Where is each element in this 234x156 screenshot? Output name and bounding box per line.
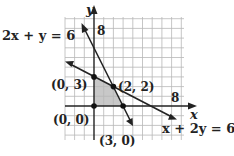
vertex-label-3-0: (3, 0) [99, 134, 135, 148]
graph: y 8 8 x 2x + y = 6 x + 2y = 6 (0, 3) (2,… [0, 0, 234, 156]
vertex-3-0 [120, 103, 126, 109]
vertex-label-0-0: (0, 0) [53, 113, 89, 127]
vertex-0-0 [91, 103, 97, 109]
vertex-label-2-2: (2, 2) [118, 80, 154, 94]
vertex-2-2 [111, 84, 117, 90]
y-axis-label: y [85, 2, 95, 17]
y-tick-label: 8 [97, 24, 105, 38]
x-axis-label: x [189, 107, 198, 122]
vertex-label-0-3: (0, 3) [51, 78, 87, 92]
vertex-0-3 [91, 74, 97, 80]
arrow-icon [168, 114, 177, 120]
x-tick-label: 8 [171, 91, 179, 105]
line-label-2x-plus-y: 2x + y = 6 [2, 28, 75, 43]
line-label-x-plus-2y: x + 2y = 6 [162, 121, 234, 136]
